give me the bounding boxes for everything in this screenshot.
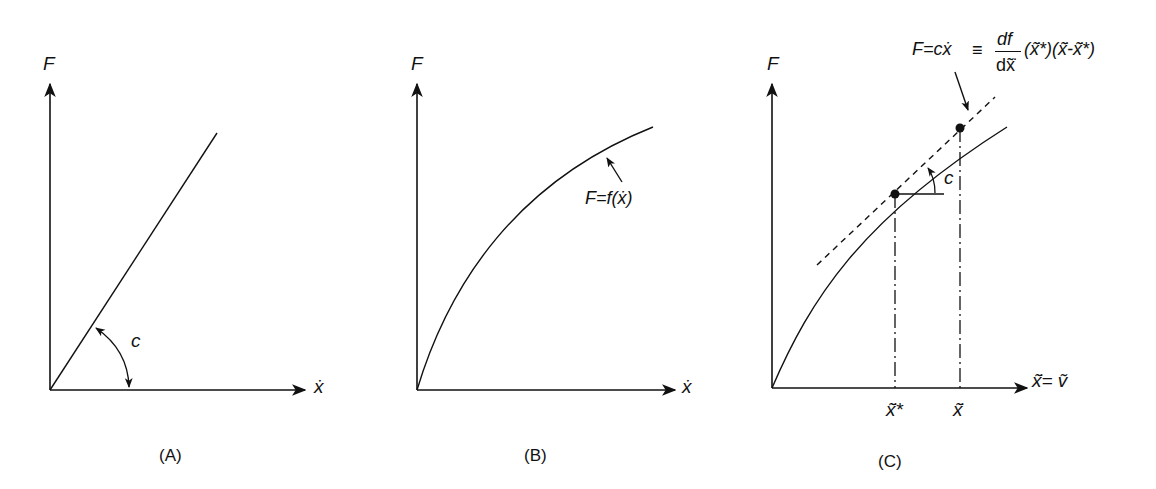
tangent-dashed-line [817, 97, 995, 265]
x-axis-label-b: ẋ [682, 377, 692, 396]
frac-num-text: df [997, 29, 1012, 49]
equation-pointer-arrow [955, 72, 968, 110]
curve-label-b: F=f(ẋ) [585, 189, 633, 207]
fraction-bar [995, 51, 1021, 52]
y-axis-label-a: F [43, 54, 55, 73]
caption-b: (B) [524, 447, 547, 464]
linear-curve [50, 133, 217, 390]
tick-label-xstar: x̃̇* [886, 400, 903, 419]
caption-a: (A) [159, 447, 182, 464]
panel-a [50, 84, 305, 390]
equation-equiv: ≡ [972, 41, 983, 59]
angle-arc [96, 328, 129, 387]
y-axis-label-c: F [767, 54, 779, 73]
point-x [956, 124, 965, 133]
figure-canvas [0, 0, 1156, 489]
equation-frac-den: dx̃̇ [996, 56, 1015, 74]
panel-b [417, 84, 675, 390]
point-xstar [891, 190, 900, 199]
concave-curve [417, 127, 653, 390]
label-pointer-arrow [607, 158, 622, 182]
caption-c: (C) [878, 453, 902, 470]
angle-label-a: c [131, 331, 141, 350]
equation-rhs: (x̃̇*)(x̃̇-x̃̇*) [1024, 40, 1095, 58]
x-axis-label-c: x̃̇= ṽ [1032, 371, 1067, 390]
tick-label-x: x̃̇ [953, 400, 963, 419]
concave-curve [772, 127, 1007, 388]
angle-label-c: c [944, 168, 954, 187]
equation-lhs: F=cẋ [912, 40, 952, 58]
x-axis-label-a: ẋ [314, 377, 324, 396]
panel-c [772, 72, 1027, 388]
y-axis-label-b: F [411, 54, 423, 73]
equation-frac-num: df [997, 30, 1012, 48]
